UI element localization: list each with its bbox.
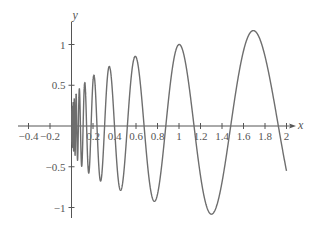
x-tick-label: 0.8 <box>151 130 165 142</box>
line-chart: x −0.4−0.20.20.40.60.811.21.41.61.82 y 1… <box>0 0 314 230</box>
x-tick-label: 1.6 <box>237 130 251 142</box>
y-axis-label: y <box>72 8 79 22</box>
x-tick-label: 1.4 <box>215 130 229 142</box>
x-tick-label: 1 <box>176 130 182 142</box>
y-tick-label: −1 <box>54 202 66 214</box>
x-tick-label: 1.8 <box>258 130 272 142</box>
x-tick-label: 0.6 <box>129 130 143 142</box>
x-tick-label: 2 <box>284 130 290 142</box>
x-tick-label: −0.4 <box>19 130 39 142</box>
y-tick-label: 0.5 <box>52 79 66 91</box>
x-axis: x −0.4−0.20.20.40.60.811.21.41.61.82 <box>18 118 304 142</box>
data-curve <box>72 31 287 215</box>
x-axis-label: x <box>297 118 304 132</box>
y-tick-label: 1 <box>60 39 66 51</box>
x-tick-label: −0.2 <box>40 130 60 142</box>
y-tick-label: −0.5 <box>46 161 66 173</box>
